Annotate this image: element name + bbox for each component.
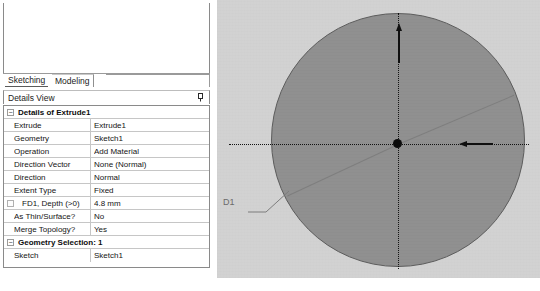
collapse-icon[interactable]: − [7,109,14,116]
dimension-leader-line [248,190,290,216]
property-name: Sketch [14,249,90,262]
property-value-depth[interactable]: 4.8 mm [94,197,207,210]
panel-tab-strip: Sketching Modeling [3,73,210,88]
property-group-header[interactable]: − Geometry Selection: 1 [4,236,209,249]
property-grid[interactable]: − Details of Extrude1 Extrude Extrude1 G… [3,105,210,268]
column-divider [90,197,91,209]
property-value[interactable]: Fixed [94,184,207,197]
table-row[interactable]: Geometry Sketch1 [4,132,209,145]
property-group-label: Geometry Selection: 1 [18,236,102,249]
property-name: Direction [14,171,90,184]
table-row[interactable]: As Thin/Surface? No [4,210,209,223]
property-value[interactable]: Normal [94,171,207,184]
table-row-depth[interactable]: FD1, Depth (>0) 4.8 mm [4,197,209,210]
table-row[interactable]: Extrude Extrude1 [4,119,209,132]
column-divider [90,210,91,222]
table-row[interactable]: Operation Add Material [4,145,209,158]
table-row[interactable]: Merge Topology? Yes [4,223,209,236]
column-divider [90,171,91,183]
origin-point-marker[interactable] [393,139,402,148]
property-group-label: Details of Extrude1 [18,106,90,119]
collapse-icon[interactable]: − [7,239,14,246]
details-view-title: Details View [8,92,55,104]
property-value[interactable]: Sketch1 [94,249,207,262]
column-divider [90,223,91,235]
graphics-viewport[interactable]: D1 [217,0,540,278]
property-name: FD1, Depth (>0) [22,197,90,210]
property-value[interactable]: No [94,210,207,223]
table-row[interactable]: Direction Vector None (Normal) [4,158,209,171]
property-value[interactable]: None (Normal) [94,158,207,171]
details-panel: Sketching Modeling Details View − Detail… [0,0,214,272]
tab-sketching[interactable]: Sketching [5,74,48,87]
property-name: Operation [14,145,90,158]
column-divider [90,119,91,131]
column-divider [90,249,91,262]
property-value[interactable]: Sketch1 [94,132,207,145]
details-view-title-bar: Details View [3,90,210,104]
extrude-direction-arrow-vertical [396,23,402,63]
column-divider [90,145,91,157]
extrude-direction-arrow-horizontal [459,141,493,147]
tab-strip-filler [106,74,210,87]
parameter-checkbox[interactable] [7,200,14,207]
arrow-shaft [398,29,400,63]
property-name: Extent Type [14,184,90,197]
property-value[interactable]: Extrude1 [94,119,207,132]
tab-modeling[interactable]: Modeling [52,74,94,87]
property-value[interactable]: Yes [94,223,207,236]
table-row[interactable]: Direction Normal [4,171,209,184]
property-name: As Thin/Surface? [14,210,90,223]
column-divider [90,158,91,170]
property-name: Merge Topology? [14,223,90,236]
pin-icon-glyph [197,93,204,102]
property-group-header[interactable]: − Details of Extrude1 [4,106,209,119]
property-name: Direction Vector [14,158,90,171]
arrow-shaft [465,143,493,145]
table-row[interactable]: Sketch Sketch1 [4,249,209,262]
property-name: Geometry [14,132,90,145]
table-row[interactable]: Extent Type Fixed [4,184,209,197]
property-value[interactable]: Add Material [94,145,207,158]
dimension-label-d1[interactable]: D1 [223,197,235,207]
column-divider [90,184,91,196]
model-tree-panel[interactable] [3,3,210,73]
column-divider [90,132,91,144]
property-name: Extrude [14,119,90,132]
pin-icon[interactable] [197,93,204,102]
